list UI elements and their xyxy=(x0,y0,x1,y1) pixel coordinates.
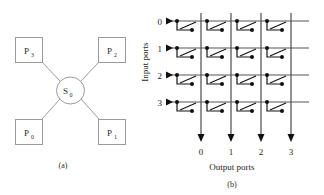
output-port-tick-3: 3 xyxy=(289,147,294,157)
input-arrow-3-icon xyxy=(166,99,173,106)
output-port-tick-0: 0 xyxy=(199,147,204,157)
input-arrow-0-icon xyxy=(166,18,173,25)
node-s0[interactable]: S 0 xyxy=(57,77,85,104)
panel-b-caption: (b) xyxy=(227,180,237,189)
spoke-to-p1 xyxy=(81,99,99,119)
y-axis-title-input-ports: Input ports xyxy=(140,42,150,82)
figure-svg: P 3 P 2 P 0 P 1 xyxy=(0,0,324,195)
output-arrowheads xyxy=(198,134,295,142)
spoke-to-p0 xyxy=(42,99,60,119)
node-p2-subscript: 2 xyxy=(114,52,117,58)
input-port-tick-1: 1 xyxy=(158,44,163,54)
output-port-tick-1: 1 xyxy=(229,147,234,157)
node-p2-label: P xyxy=(107,46,112,56)
input-arrow-1-icon xyxy=(166,45,173,52)
figure-root: P 3 P 2 P 0 P 1 xyxy=(0,0,324,195)
x-axis-title-output-ports: Output ports xyxy=(209,162,255,172)
node-p3-subscript: 3 xyxy=(31,52,34,58)
input-port-tick-3: 3 xyxy=(158,98,163,108)
input-port-tick-2: 2 xyxy=(158,71,163,81)
panel-a-caption: (a) xyxy=(59,161,68,170)
output-bus-lines xyxy=(201,13,291,140)
input-arrowheads xyxy=(166,18,173,106)
node-p1[interactable]: P 1 xyxy=(99,120,126,145)
input-bus-lines xyxy=(171,21,309,102)
node-s0-subscript: 0 xyxy=(70,92,73,98)
node-p0-subscript: 0 xyxy=(31,134,34,140)
node-p2[interactable]: P 2 xyxy=(99,38,126,63)
input-port-tick-0: 0 xyxy=(158,17,163,27)
input-port-ticks: 0 1 2 3 xyxy=(158,17,163,108)
output-port-ticks: 0 1 2 3 xyxy=(199,147,294,157)
output-arrow-0-icon xyxy=(198,134,205,142)
spoke-to-p3 xyxy=(42,62,60,81)
panel-a-star-topology: P 3 P 2 P 0 P 1 xyxy=(16,38,126,171)
node-p1-label: P xyxy=(107,128,112,138)
output-arrow-3-icon xyxy=(288,134,295,142)
node-p0[interactable]: P 0 xyxy=(16,120,43,145)
spoke-to-p2 xyxy=(81,62,99,81)
node-s0-circle xyxy=(57,77,85,104)
node-p1-subscript: 1 xyxy=(114,134,117,140)
output-arrow-2-icon xyxy=(258,134,265,142)
input-arrow-2-icon xyxy=(166,72,173,79)
output-port-tick-2: 2 xyxy=(259,147,264,157)
node-p3-label: P xyxy=(24,46,29,56)
node-p0-label: P xyxy=(24,128,29,138)
panel-b-crossbar: 0 1 2 3 0 1 2 3 Input ports Output ports… xyxy=(140,13,309,189)
output-arrow-1-icon xyxy=(228,134,235,142)
node-s0-label: S xyxy=(63,86,68,96)
node-p3[interactable]: P 3 xyxy=(16,38,43,63)
